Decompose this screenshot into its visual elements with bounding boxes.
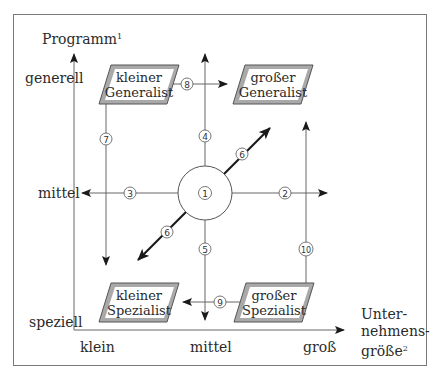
x-tick-mittel: mittel xyxy=(190,339,232,355)
x-axis-title: Unter- nehmens- größe2 xyxy=(361,306,430,360)
label-grosser-spezialist: großerSpezialist xyxy=(236,283,312,323)
svg-text:2: 2 xyxy=(282,189,288,199)
label-kleiner-generalist: kleinerGeneralist xyxy=(101,65,177,105)
x-tick-gross: groß xyxy=(303,339,336,355)
svg-text:3: 3 xyxy=(127,189,133,199)
svg-text:5: 5 xyxy=(202,245,208,255)
arrow-6-downleft xyxy=(138,212,186,260)
svg-text:9: 9 xyxy=(217,298,223,308)
svg-text:1: 1 xyxy=(202,189,208,199)
y-tick-mittel: mittel xyxy=(38,185,80,201)
y-tick-generell: generell xyxy=(25,70,83,86)
svg-text:8: 8 xyxy=(184,80,190,90)
svg-text:6: 6 xyxy=(164,228,170,238)
label-grosser-generalist: großerGeneralist xyxy=(235,65,311,105)
label-kleiner-spezialist: kleinerSpezialist xyxy=(101,283,177,323)
svg-text:7: 7 xyxy=(103,135,109,145)
x-tick-klein: klein xyxy=(80,339,115,355)
y-tick-speziell: speziell xyxy=(29,314,83,330)
svg-text:6: 6 xyxy=(239,150,245,160)
svg-text:4: 4 xyxy=(202,132,208,142)
svg-text:10: 10 xyxy=(301,246,311,255)
y-axis-title: Programm1 xyxy=(42,29,122,47)
